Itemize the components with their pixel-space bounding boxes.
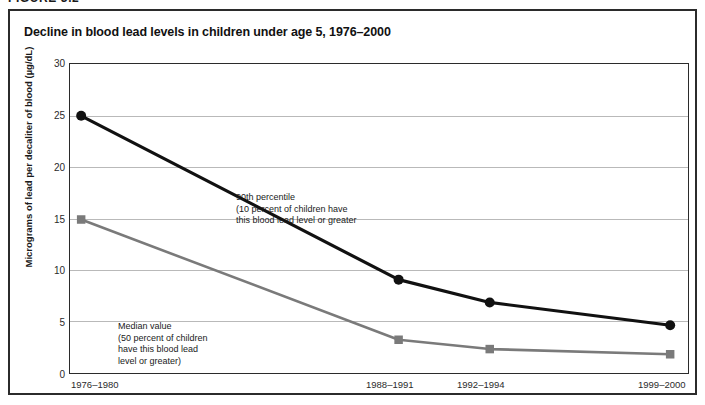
figure-box: Decline in blood lead levels in children… [8, 9, 697, 395]
x-tick-1999-2000: 1999–2000 [638, 379, 686, 390]
y-tick-30: 30 [39, 58, 65, 69]
y-tick-25: 25 [39, 109, 65, 120]
data-point-90th-1999–2000 [665, 320, 675, 330]
annotation-90th-percentile: 90th percentile (10 percent of children … [236, 192, 357, 227]
plot-wrapper: Micrograms of lead per decaliter of bloo… [10, 11, 699, 397]
data-point-90th-1988–1991 [394, 275, 404, 285]
plot-area: 90th percentile (10 percent of children … [69, 63, 689, 374]
figure-label: FIGURE 3.2 [8, 0, 79, 5]
y-tick-10: 10 [39, 265, 65, 276]
line-90th-percentile [81, 116, 670, 325]
data-point-median-1999–2000 [666, 350, 675, 359]
data-point-median-1976–1980 [77, 215, 86, 224]
y-tick-15: 15 [39, 213, 65, 224]
markers-90th-percentile [76, 111, 675, 330]
y-tick-5: 5 [39, 317, 65, 328]
data-point-median-1992–1994 [485, 345, 494, 354]
annotation-median: Median value (50 percent of children hav… [118, 321, 208, 367]
data-point-90th-1992–1994 [485, 297, 495, 307]
y-tick-0: 0 [39, 369, 65, 380]
y-axis-tick-labels: 30 25 20 15 10 5 0 [32, 63, 65, 374]
y-tick-20: 20 [39, 161, 65, 172]
data-point-90th-1976–1980 [76, 111, 86, 121]
data-point-median-1988–1991 [394, 336, 403, 345]
x-tick-1992-1994: 1992–1994 [457, 379, 505, 390]
x-tick-1988-1991: 1988–1991 [366, 379, 414, 390]
x-tick-1976-1980: 1976–1980 [71, 379, 119, 390]
